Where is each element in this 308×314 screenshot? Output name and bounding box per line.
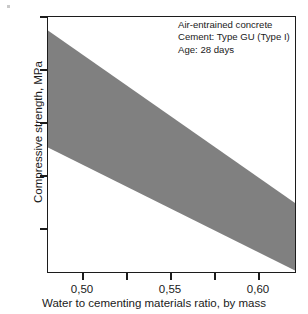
- y-axis-title: Compressive strength, MPa: [32, 32, 44, 232]
- x-tick-mark-0p55: [170, 273, 172, 280]
- annotation-line-3: Age: 28 days: [178, 44, 290, 56]
- x-tick-mark-0p50: [82, 273, 84, 280]
- x-axis-title: Water to cementing materials ratio, by m…: [0, 297, 308, 309]
- x-tick-mark-0p525: [126, 273, 128, 280]
- x-tick-mark-0p60: [258, 273, 260, 280]
- annotation-block: Air-entrained concrete Cement: Type GU (…: [178, 19, 290, 56]
- x-tick-label-0p60: 0,60: [247, 283, 269, 295]
- x-tick-label-0p50: 0,50: [71, 283, 93, 295]
- x-tick-mark-0p575: [214, 273, 216, 280]
- chart-figure: 35 28 21 0,50 0,55 0,60 Compressive stre…: [0, 0, 308, 314]
- strength-band-polygon: [48, 31, 295, 271]
- annotation-line-2: Cement: Type GU (Type I): [178, 31, 290, 43]
- y-tick-mark-35: [40, 16, 47, 18]
- annotation-line-1: Air-entrained concrete: [178, 19, 290, 31]
- scan-artifact-speck: [7, 5, 10, 8]
- x-tick-label-0p55: 0,55: [159, 283, 181, 295]
